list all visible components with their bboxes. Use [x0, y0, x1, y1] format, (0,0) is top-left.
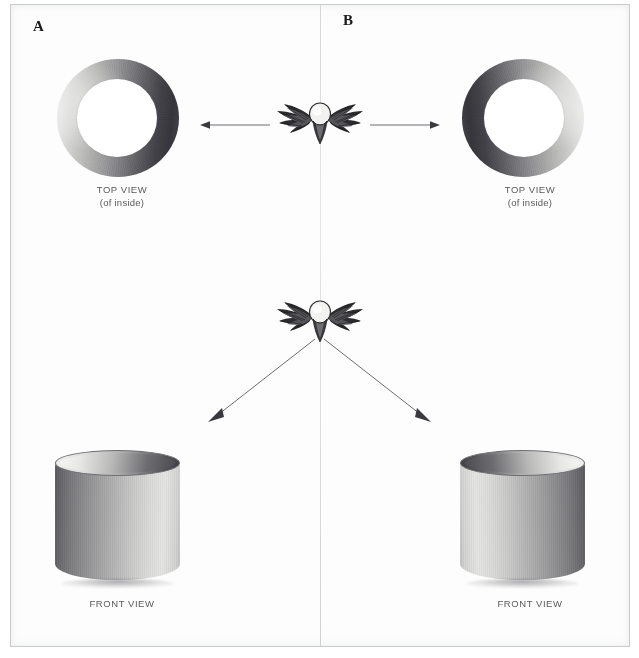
cylinder-front-view-b — [460, 450, 585, 590]
caption-front-view-a: FRONT VIEW — [42, 597, 202, 610]
caption-front-view-a-line1: FRONT VIEW — [42, 597, 202, 610]
arrow-to-top-view-b — [368, 112, 440, 138]
emblem-right-wing-icon — [327, 104, 363, 133]
cylinder-b-base-shadow — [466, 579, 579, 588]
emblem-left-wing-icon — [277, 104, 313, 133]
cylinder-a-body — [55, 462, 180, 580]
emblem-eye-icon — [310, 301, 331, 342]
ring-top-view-b — [462, 59, 584, 177]
cylinder-b-cavity — [465, 453, 580, 473]
figure-page: A B TOP VIEW (of inside) TOP VIEW (of in… — [0, 0, 639, 658]
caption-top-view-a-line1: TOP VIEW — [42, 183, 202, 196]
ring-top-view-a — [57, 59, 179, 177]
panel-letter-a: A — [33, 18, 44, 35]
arrow-to-top-view-a — [200, 112, 272, 138]
caption-top-view-b-line1: TOP VIEW — [450, 183, 610, 196]
winged-eye-emblem-top — [272, 96, 368, 152]
cylinder-a-cavity — [60, 453, 175, 473]
ring-b-inner-hole — [484, 79, 564, 157]
panel-letter-b: B — [343, 12, 353, 29]
cylinder-front-view-a — [55, 450, 180, 590]
caption-front-view-b: FRONT VIEW — [450, 597, 610, 610]
emblem-left-wing-icon — [277, 302, 313, 331]
ring-a-inner-hole — [77, 79, 157, 157]
emblem-right-wing-icon — [327, 302, 363, 331]
cylinder-b-body — [460, 462, 585, 580]
winged-eye-emblem-bottom — [272, 294, 368, 350]
caption-top-view-b: TOP VIEW (of inside) — [450, 183, 610, 209]
caption-top-view-b-line2: (of inside) — [450, 196, 610, 209]
emblem-eye-icon — [310, 103, 331, 144]
cylinder-a-base-shadow — [61, 579, 174, 588]
caption-front-view-b-line1: FRONT VIEW — [450, 597, 610, 610]
caption-top-view-a: TOP VIEW (of inside) — [42, 183, 202, 209]
caption-top-view-a-line2: (of inside) — [42, 196, 202, 209]
